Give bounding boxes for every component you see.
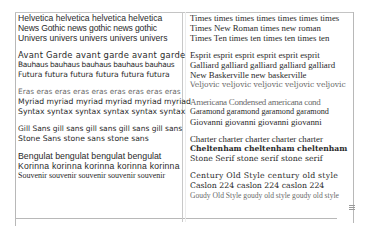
- font-sample-esprit: Esprit esprit esprit esprit esprit espri…: [190, 50, 352, 60]
- font-sample-helvetica: Helvetica helvetica helvetica helvetica: [18, 13, 180, 23]
- font-sample-news-gothic: News Gothic news gothic news gothic: [18, 23, 180, 33]
- font-group-times: Times times times times times times time…: [190, 13, 352, 43]
- font-sample-veljovic: Veljovic veljovic veljovic veljovic velj…: [190, 80, 352, 90]
- font-group-display: Bengulat bengulat bengulat bengulat Kori…: [18, 151, 180, 181]
- column-divider: [182, 12, 183, 222]
- font-sample-stone-serif: Stone Serif stone serif stone serif: [190, 154, 352, 164]
- table-border-left: [15, 12, 16, 226]
- font-sample-century-old-style: Century Old Style century old style: [190, 171, 352, 181]
- font-group-geometric: Avant Garde avant garde avant garde Bauh…: [18, 50, 180, 80]
- resize-grip-icon[interactable]: [349, 205, 355, 212]
- font-group-oldstyle: Esprit esprit esprit esprit esprit espri…: [190, 50, 352, 90]
- font-group-classic: Century Old Style century old style Casl…: [190, 171, 352, 201]
- font-group-grotesque: Helvetica helvetica helvetica helvetica …: [18, 13, 180, 43]
- font-sample-stone-sans: Stone Sans stone sans stone sans: [18, 134, 180, 144]
- font-group-garalde: Americana Condensed americana cond Garam…: [190, 97, 352, 127]
- table-border-right: [353, 12, 354, 223]
- font-sample-new-baskerville: New Baskerville new baskerville: [190, 70, 352, 80]
- font-sample-bauhaus: Bauhaus bauhaus bauhaus bauhaus bauhaus: [18, 60, 180, 70]
- font-sample-syntax: Syntax syntax syntax syntax syntax synta…: [18, 107, 180, 117]
- table-border-bottom: [15, 218, 337, 219]
- font-group-humanist: Eras eras eras eras eras eras eras eras …: [18, 87, 180, 117]
- font-sample-bengulat: Bengulat bengulat bengulat bengulat: [18, 151, 180, 161]
- font-sample-myriad: Myriad myriad myriad myriad myriad myria…: [18, 97, 180, 107]
- font-sample-eras: Eras eras eras eras eras eras eras eras …: [18, 87, 180, 97]
- font-sample-avant-garde: Avant Garde avant garde avant garde: [18, 50, 180, 60]
- font-sample-garamond: Garamond garamond garamond garamond: [190, 107, 352, 117]
- font-sample-cheltenham: Cheltenham cheltenham cheltenham: [190, 144, 352, 154]
- font-sample-korinna: Korinna korinna korinna korinna korinna: [18, 161, 180, 171]
- font-sample-americana-condensed: Americana Condensed americana cond: [190, 97, 352, 107]
- font-group-transitional: Charter charter charter charter charter …: [190, 134, 352, 164]
- font-sample-giovanni: Giovanni giovanni giovanni giovanni: [190, 117, 352, 127]
- sans-serif-font-column: Helvetica helvetica helvetica helvetica …: [18, 13, 180, 188]
- font-sample-times-new-roman: Times New Roman times new roman: [190, 23, 352, 33]
- font-sample-univers: Univers univers univers univers univers: [18, 33, 180, 43]
- font-sample-caslon-224: Caslon 224 caslon 224 caslon 224: [190, 181, 352, 191]
- font-sample-souvenir: Souvenir souvenir souvenir souvenir souv…: [18, 171, 180, 181]
- font-sample-times-ten: Times Ten times ten times ten times ten: [190, 33, 352, 43]
- serif-font-column: Times times times times times times time…: [190, 13, 352, 208]
- column-divider-shadow: [185, 12, 186, 222]
- font-sample-gill-sans: Gill Sans gill sans gill sans gill sans …: [18, 124, 180, 134]
- font-sample-galliard: Galliard galliard galliard galliard gall…: [190, 60, 352, 70]
- font-sample-charter: Charter charter charter charter charter: [190, 134, 352, 144]
- font-sample-goudy-old-style: Goudy Old Style goudy old style goudy ol…: [190, 191, 352, 201]
- font-sample-futura: Futura futura futura futura futura futur…: [18, 70, 180, 80]
- font-sample-times: Times times times times times times time…: [190, 13, 352, 23]
- font-group-gill-stone: Gill Sans gill sans gill sans gill sans …: [18, 124, 180, 144]
